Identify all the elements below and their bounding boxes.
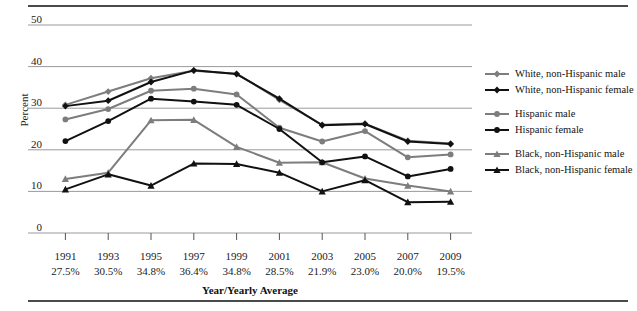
series-line-2 bbox=[63, 86, 454, 160]
x-tick-year: 1993 bbox=[85, 250, 131, 262]
data-point bbox=[319, 159, 325, 165]
x-tick-group: 200523.0% bbox=[342, 250, 388, 277]
y-tick-label: 0 bbox=[24, 222, 42, 233]
y-tick-label: 40 bbox=[24, 56, 42, 67]
legend-marker-triangle-icon bbox=[484, 163, 510, 177]
data-point bbox=[191, 86, 197, 92]
y-axis-title: Percent bbox=[18, 80, 30, 140]
x-tick-year: 2007 bbox=[385, 250, 431, 262]
x-tick-year: 2005 bbox=[342, 250, 388, 262]
legend-item[interactable]: Black, non-Hispanic male bbox=[484, 146, 636, 161]
x-tick-average: 21.9% bbox=[299, 265, 345, 277]
legend-marker-circle-icon bbox=[484, 123, 510, 137]
data-point bbox=[63, 138, 69, 144]
x-tick-average: 36.4% bbox=[171, 265, 217, 277]
data-point bbox=[63, 117, 69, 123]
data-point bbox=[448, 166, 454, 172]
data-point bbox=[362, 154, 368, 160]
data-point bbox=[234, 92, 240, 98]
chart-legend: White, non-Hispanic maleWhite, non-Hispa… bbox=[484, 66, 636, 186]
legend-marker-diamond-icon bbox=[484, 67, 510, 81]
data-point bbox=[319, 139, 325, 145]
legend-item[interactable]: White, non-Hispanic female bbox=[484, 82, 636, 97]
top-horizontal-rule bbox=[28, 5, 628, 7]
data-point bbox=[447, 141, 454, 148]
legend-label: Hispanic male bbox=[515, 108, 575, 119]
data-point bbox=[277, 126, 283, 132]
data-point bbox=[105, 106, 111, 112]
data-point bbox=[234, 102, 240, 108]
legend-group-0: White, non-Hispanic maleWhite, non-Hispa… bbox=[484, 66, 636, 97]
x-tick-year: 2009 bbox=[428, 250, 474, 262]
legend-label: Black, non-Hispanic male bbox=[515, 148, 624, 159]
chart-svg bbox=[0, 14, 480, 240]
y-tick-label: 10 bbox=[24, 180, 42, 191]
legend-label: Hispanic female bbox=[515, 124, 584, 135]
data-point bbox=[362, 121, 369, 128]
x-tick-year: 1995 bbox=[128, 250, 174, 262]
legend-group-1: Hispanic maleHispanic female bbox=[484, 106, 636, 137]
data-point bbox=[362, 128, 368, 134]
legend-marker-triangle-icon bbox=[484, 147, 510, 161]
legend-marker-circle-icon bbox=[484, 107, 510, 121]
x-tick-year: 1997 bbox=[171, 250, 217, 262]
legend-item[interactable]: Hispanic female bbox=[484, 122, 636, 137]
data-point bbox=[448, 151, 454, 157]
x-tick-group: 199934.8% bbox=[214, 250, 260, 277]
data-point bbox=[105, 88, 112, 95]
legend-marker-diamond-icon bbox=[484, 83, 510, 97]
x-tick-average: 20.0% bbox=[385, 265, 431, 277]
x-tick-year: 2001 bbox=[256, 250, 302, 262]
series-line-0 bbox=[62, 67, 454, 147]
y-tick-label: 20 bbox=[24, 139, 42, 150]
x-tick-average: 19.5% bbox=[428, 265, 474, 277]
legend-label: Black, non-Hispanic female bbox=[515, 164, 633, 175]
legend-label: White, non-Hispanic male bbox=[515, 68, 626, 79]
x-tick-average: 28.5% bbox=[256, 265, 302, 277]
x-tick-group: 199736.4% bbox=[171, 250, 217, 277]
legend-group-2: Black, non-Hispanic maleBlack, non-Hispa… bbox=[484, 146, 636, 177]
x-tick-group: 200720.0% bbox=[385, 250, 431, 277]
plot-area bbox=[0, 14, 480, 240]
x-tick-group: 199534.8% bbox=[128, 250, 174, 277]
x-tick-group: 199127.5% bbox=[42, 250, 88, 277]
x-tick-year: 1999 bbox=[214, 250, 260, 262]
x-tick-average: 34.8% bbox=[128, 265, 174, 277]
data-point bbox=[148, 96, 154, 102]
series-line-4 bbox=[62, 116, 454, 194]
x-tick-group: 200321.9% bbox=[299, 250, 345, 277]
x-tick-average: 27.5% bbox=[42, 265, 88, 277]
x-tick-average: 34.8% bbox=[214, 265, 260, 277]
x-tick-group: 199330.5% bbox=[85, 250, 131, 277]
legend-label: White, non-Hispanic female bbox=[515, 84, 634, 95]
legend-item[interactable]: White, non-Hispanic male bbox=[484, 66, 636, 81]
series-line-1 bbox=[62, 67, 454, 147]
x-tick-year: 2003 bbox=[299, 250, 345, 262]
x-tick-group: 200919.5% bbox=[428, 250, 474, 277]
figure-container: 50403020100 Percent 199127.5%199330.5%19… bbox=[0, 0, 637, 311]
legend-item[interactable]: Black, non-Hispanic female bbox=[484, 162, 636, 177]
x-axis-title: Year/Yearly Average bbox=[100, 284, 400, 296]
x-tick-average: 30.5% bbox=[85, 265, 131, 277]
x-tick-average: 23.0% bbox=[342, 265, 388, 277]
data-point bbox=[191, 99, 197, 105]
data-point bbox=[105, 97, 112, 104]
bottom-horizontal-rule bbox=[28, 300, 628, 302]
data-point bbox=[190, 67, 197, 74]
y-tick-label: 50 bbox=[24, 14, 42, 25]
legend-item[interactable]: Hispanic male bbox=[484, 106, 636, 121]
x-tick-group: 200128.5% bbox=[256, 250, 302, 277]
data-point bbox=[405, 174, 411, 180]
x-tick-year: 1991 bbox=[42, 250, 88, 262]
data-point bbox=[105, 118, 111, 124]
data-point bbox=[148, 88, 154, 94]
data-point bbox=[405, 154, 411, 160]
